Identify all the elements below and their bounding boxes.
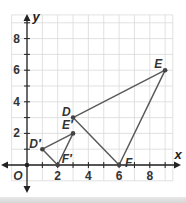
- vertex-point: [117, 163, 122, 168]
- vertex-label: E′: [62, 118, 74, 132]
- vertex-label: F′: [62, 152, 73, 166]
- y-tick-label: 6: [13, 63, 20, 77]
- vertex-label: D: [62, 105, 71, 119]
- footer-band: [0, 197, 186, 203]
- vertex-label: F: [125, 156, 133, 170]
- x-tick-label: 8: [146, 169, 153, 183]
- vertex-point: [163, 68, 168, 73]
- y-axis-down-arrow-icon: [24, 186, 31, 193]
- axes: [1, 14, 181, 193]
- x-axis-left-arrow-icon: [1, 162, 8, 169]
- vertex-label: E: [154, 57, 163, 71]
- y-tick-label: 8: [13, 32, 20, 46]
- origin-label: O: [13, 169, 23, 183]
- x-axis-label: x: [173, 147, 182, 162]
- vertex-point: [55, 163, 60, 168]
- grid-lines: [12, 15, 173, 181]
- coordinate-plane: 24682468xyODEFD′E′F′: [0, 0, 186, 197]
- x-tick-label: 2: [54, 169, 61, 183]
- y-tick-label: 4: [13, 95, 20, 109]
- axis-ticks: [24, 23, 165, 168]
- y-axis-label: y: [31, 9, 40, 24]
- x-tick-label: 6: [116, 169, 123, 183]
- labels: 24682468xyODEFD′E′F′: [13, 9, 182, 183]
- x-tick-label: 4: [85, 169, 92, 183]
- x-axis-right-arrow-icon: [174, 162, 181, 169]
- vertex-label: D′: [29, 137, 42, 151]
- origin-point: [25, 163, 30, 168]
- y-tick-label: 2: [13, 126, 20, 140]
